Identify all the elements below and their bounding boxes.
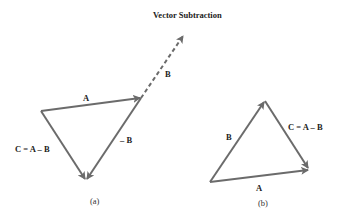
label-b: B bbox=[165, 69, 171, 79]
vector-b-arrow bbox=[210, 102, 264, 182]
label-a: A bbox=[83, 93, 90, 103]
label-b-panel-b: B bbox=[226, 132, 232, 142]
label-a-panel-b: A bbox=[256, 183, 263, 193]
vector-subtraction-diagram: Vector Subtraction A – B B C = A – B (a)… bbox=[0, 0, 350, 223]
caption-a: (a) bbox=[90, 196, 100, 206]
vector-c-arrow-b bbox=[265, 101, 308, 168]
vector-a-arrow-b bbox=[210, 170, 308, 182]
panel-b: B C = A – B A (b) bbox=[210, 101, 323, 208]
label-c-panel-b: C = A – B bbox=[288, 122, 323, 132]
vector-a-arrow bbox=[41, 98, 140, 111]
vector-neg-b-arrow bbox=[87, 98, 141, 179]
label-c: C = A – B bbox=[15, 144, 50, 154]
label-neg-b: – B bbox=[119, 135, 132, 145]
diagram-title: Vector Subtraction bbox=[153, 10, 222, 20]
panel-a: A – B B C = A – B (a) bbox=[15, 36, 183, 206]
caption-b: (b) bbox=[258, 198, 268, 208]
vector-b-dashed-arrow bbox=[141, 36, 183, 98]
